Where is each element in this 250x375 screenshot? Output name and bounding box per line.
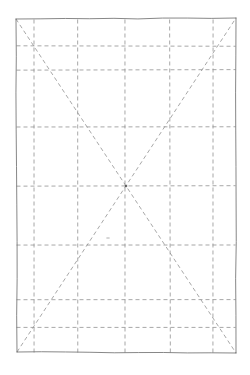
figure-container: Rectangular grid with crossed diagonals … xyxy=(0,0,250,375)
grid-diagonals-diagram xyxy=(0,0,250,375)
center-node xyxy=(125,185,128,188)
frame-edge-right xyxy=(236,18,237,353)
